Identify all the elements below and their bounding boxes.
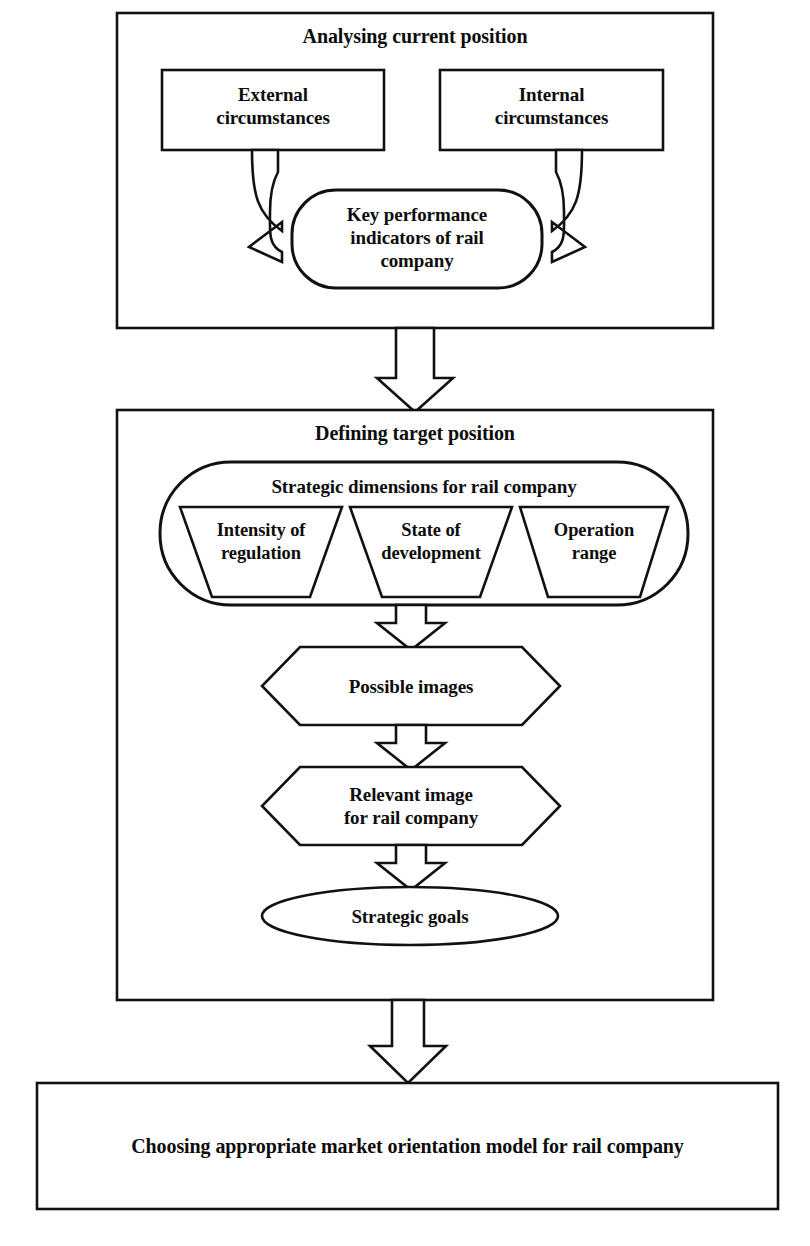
flowchart-canvas xyxy=(0,0,810,1246)
node-strategic-goals-shape xyxy=(262,887,558,945)
node-possible-images-shape xyxy=(262,647,560,725)
node-relevant-image-shape xyxy=(262,767,560,845)
connector-section2-to-final xyxy=(370,1000,446,1083)
node-internal-circumstances-shape xyxy=(440,70,663,150)
node-key-performance-indicators-shape xyxy=(292,190,542,288)
node-choosing-market-orientation-model-shape xyxy=(37,1083,778,1209)
connector-section1-to-section2 xyxy=(377,328,453,412)
node-external-circumstances-shape xyxy=(162,70,384,150)
